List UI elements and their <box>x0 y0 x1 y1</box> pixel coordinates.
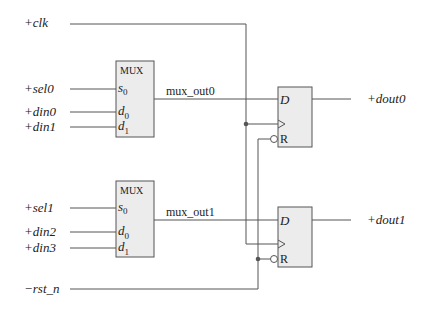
inversion-bubble-icon <box>271 256 278 263</box>
input-label-sel1: +sel1 <box>24 200 54 215</box>
input-label-sel0: +sel0 <box>24 81 54 96</box>
dff-1-pin-d: D <box>279 213 290 228</box>
input-label-din1: +din1 <box>24 119 56 134</box>
input-label-din0: +din0 <box>24 104 56 119</box>
input-label-rst-n: −rst_n <box>24 281 60 296</box>
output-label-dout0: +dout0 <box>367 91 406 106</box>
inversion-bubble-icon <box>271 136 278 143</box>
mux-1: MUX s0 d0 d1 <box>116 181 154 257</box>
circuit-diagram: +clk +sel0 +din0 +din1 +sel1 +din2 +din3… <box>0 0 429 311</box>
junction-dot-rst <box>256 257 261 262</box>
mux-0: MUX s0 d0 d1 <box>116 61 154 137</box>
net-label-mux-out1: mux_out1 <box>166 205 215 219</box>
mux-0-title: MUX <box>120 65 144 76</box>
dff-1-pin-r: R <box>280 252 288 266</box>
output-label-dout1: +dout1 <box>367 212 405 227</box>
net-label-mux-out0: mux_out0 <box>166 84 215 98</box>
input-label-din3: +din3 <box>24 240 56 255</box>
dff-0-pin-d: D <box>279 92 290 107</box>
input-label-clk: +clk <box>24 15 48 30</box>
input-label-din2: +din2 <box>24 224 56 239</box>
mux-1-title: MUX <box>120 185 144 196</box>
dff-1: D R <box>271 207 313 267</box>
dff-0: D R <box>271 87 313 147</box>
dff-0-pin-r: R <box>280 132 288 146</box>
junction-dot-clk <box>244 122 249 127</box>
